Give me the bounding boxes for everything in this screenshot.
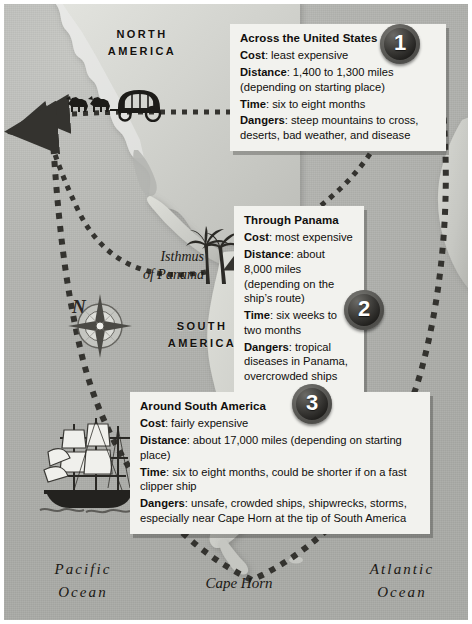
label-pacific-ocean: Pacific Ocean: [18, 558, 148, 603]
route-card-2-time: Time: six weeks to two months: [244, 308, 354, 338]
route-card-2-distance-label: Distance: [244, 248, 291, 260]
label-atlantic-ocean: Atlantic Ocean: [338, 558, 466, 603]
route-card-3-cost-value: fairly expensive: [171, 417, 248, 429]
route-card-1-dangers-label: Dangers: [240, 114, 285, 126]
route-card-2-cost-label: Cost: [244, 231, 269, 243]
route-card-2-dangers: Dangers: tropical diseases in Panama, ov…: [244, 340, 354, 384]
route-card-2-dangers-label: Dangers: [244, 341, 289, 353]
route-card-3-time-value: six to eight months, could be shorter if…: [140, 466, 407, 493]
routes-to-california-map: N: [0, 0, 472, 624]
route-card-1-cost-label: Cost: [240, 49, 265, 61]
route-badge-3: 3: [292, 384, 332, 424]
route-badge-2: 2: [344, 290, 384, 330]
route-card-3-title: Around South America: [140, 399, 420, 414]
route-badge-3-number: 3: [306, 392, 318, 414]
covered-wagon-icon: [62, 88, 166, 122]
route-card-2-cost-value: most expensive: [275, 231, 353, 243]
compass-north-label: N: [72, 296, 86, 318]
route-card-2-time-label: Time: [244, 309, 270, 321]
route-badge-1-number: 1: [394, 32, 406, 54]
clipper-ship-icon: [34, 416, 138, 514]
route-card-1-distance: Distance: 1,400 to 1,300 miles (dependin…: [240, 65, 436, 95]
route-card-2-distance: Distance: about 8,000 miles (depending o…: [244, 247, 354, 306]
route-badge-1: 1: [380, 24, 420, 64]
route-card-1-time-label: Time: [240, 98, 266, 110]
route-card-1-distance-label: Distance: [240, 66, 287, 78]
label-isthmus-of-panama: Isthmus of Panama: [92, 248, 204, 283]
route-card-1-time-value: six to eight months: [272, 98, 365, 110]
route-card-1-cost-value: least expensive: [271, 49, 348, 61]
route-card-3-time: Time: six to eight months, could be shor…: [140, 465, 420, 495]
route-card-3-dangers: Dangers: unsafe, crowded ships, shipwrec…: [140, 496, 420, 526]
route-card-3-time-label: Time: [140, 466, 166, 478]
route-card-2-title: Through Panama: [244, 213, 354, 228]
route-card-2: Through Panama Cost: most expensive Dist…: [234, 206, 364, 392]
route-card-1-dangers: Dangers: steep mountains to cross, deser…: [240, 113, 436, 143]
route-badge-2-number: 2: [358, 298, 370, 320]
label-north-america: NORTH AMERICA: [72, 26, 212, 60]
route-card-3: Around South America Cost: fairly expens…: [130, 392, 430, 534]
route-card-3-distance-label: Distance: [140, 434, 187, 446]
route-card-2-cost: Cost: most expensive: [244, 230, 354, 245]
route-card-3-distance: Distance: about 17,000 miles (depending …: [140, 433, 420, 463]
route-card-3-dangers-label: Dangers: [140, 497, 185, 509]
route-card-1-time: Time: six to eight months: [240, 97, 436, 112]
label-cape-horn: Cape Horn: [178, 575, 300, 592]
route-card-3-cost: Cost: fairly expensive: [140, 416, 420, 431]
route-card-3-cost-label: Cost: [140, 417, 165, 429]
